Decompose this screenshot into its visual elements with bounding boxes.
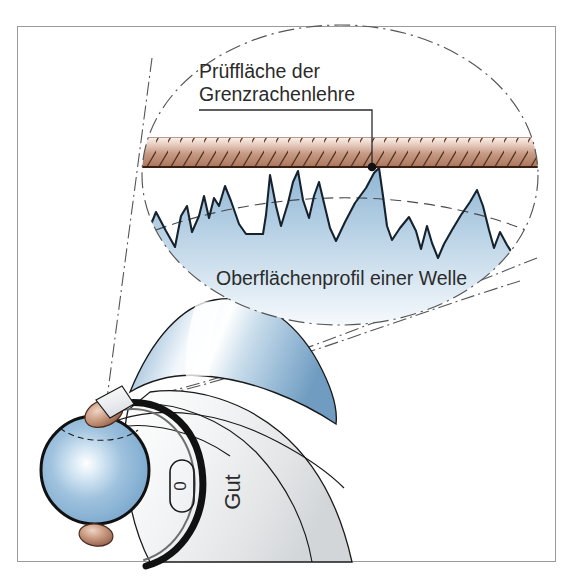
- surface-profile-caption: Oberflächenprofil einer Welle: [216, 267, 467, 289]
- leader-line-upper: [106, 58, 152, 406]
- illustration-canvas: 0 Gut Prüffläc: [0, 0, 566, 579]
- gauge-verdict-label: Gut: [220, 474, 245, 509]
- contact-pad-bottom: [78, 522, 115, 549]
- test-surface-label-line2: Grenzrachenlehre: [199, 83, 355, 105]
- figure-root: 0 Gut Prüffläc: [0, 0, 566, 579]
- shaft-sphere: [41, 416, 149, 524]
- zero-badge-label: 0: [171, 481, 190, 490]
- test-surface-label-line1: Prüffläche der: [199, 60, 321, 82]
- measurement-point-dot: [368, 163, 377, 172]
- gauge-test-surface-band: [130, 137, 550, 167]
- limit-snap-gauge: 0 Gut: [41, 299, 352, 566]
